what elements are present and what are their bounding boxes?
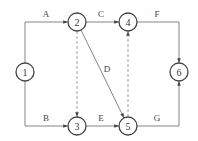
node-2: 2 — [68, 13, 86, 31]
edge-a — [25, 22, 68, 63]
edge-label-c: C — [98, 9, 104, 19]
node-3: 3 — [68, 117, 86, 135]
edge-label-b: B — [43, 113, 49, 123]
edge-d — [81, 30, 124, 118]
node-6: 6 — [170, 63, 188, 81]
node-1: 1 — [16, 63, 34, 81]
edge-f — [137, 22, 179, 63]
edge-label-d: D — [104, 64, 111, 74]
edge-label-a: A — [43, 9, 50, 19]
node-5: 5 — [119, 117, 137, 135]
edge-label-e: E — [98, 113, 104, 123]
network-diagram: A B C D E F G 1 2 3 4 5 6 — [0, 0, 198, 141]
edge-label-g: G — [154, 113, 161, 123]
node-4-label: 4 — [126, 17, 131, 28]
node-4: 4 — [119, 13, 137, 31]
node-6-label: 6 — [177, 67, 182, 78]
edge-label-f: F — [154, 9, 159, 19]
node-2-label: 2 — [75, 17, 80, 28]
node-3-label: 3 — [75, 121, 80, 132]
node-5-label: 5 — [126, 121, 131, 132]
node-1-label: 1 — [23, 67, 28, 78]
